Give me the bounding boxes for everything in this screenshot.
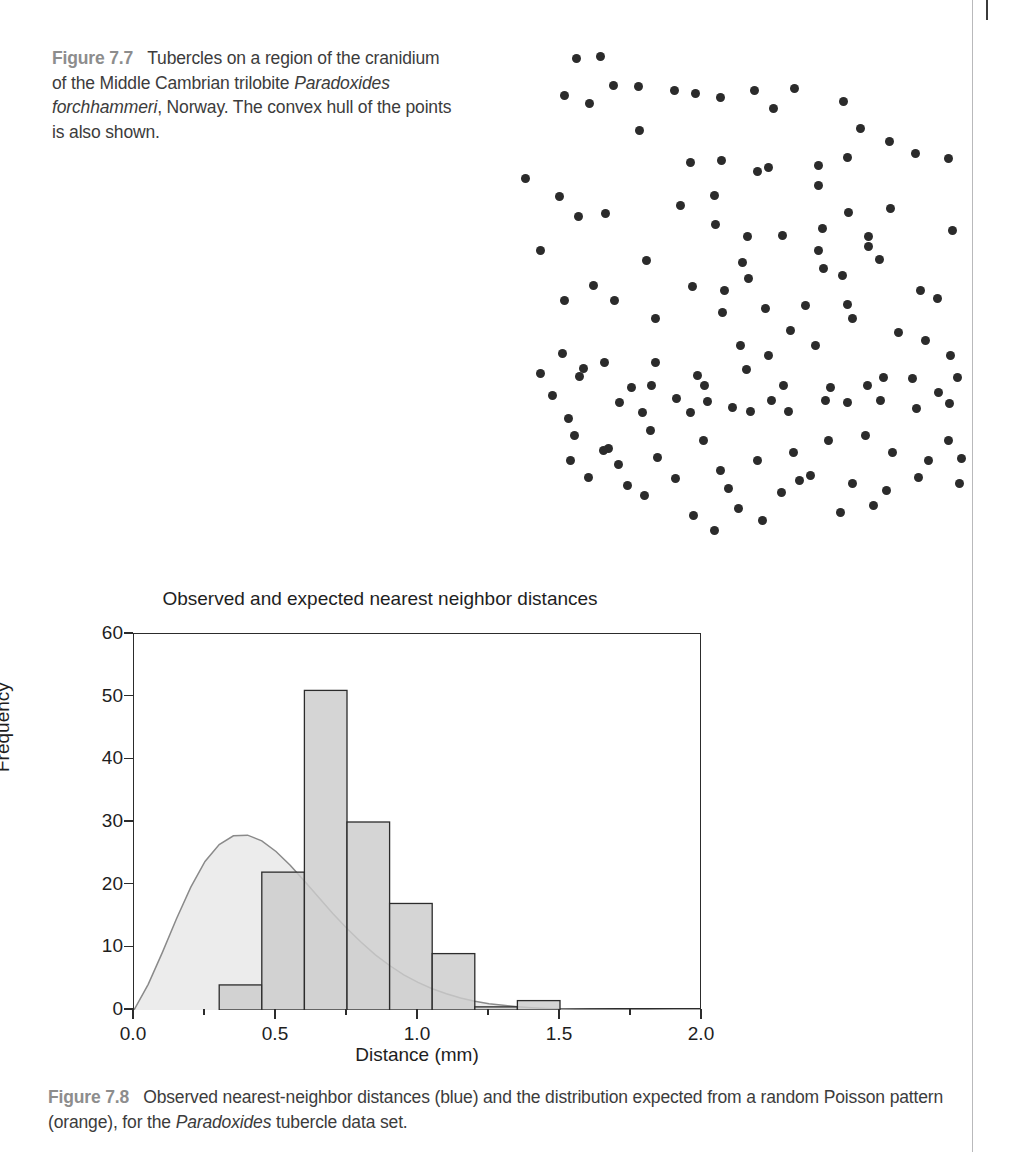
x-axis-tick-mark (274, 1009, 275, 1019)
tubercle-point (742, 365, 751, 374)
tubercle-point (955, 479, 964, 488)
y-axis-title: Frequency (0, 682, 14, 772)
tubercle-point (615, 398, 624, 407)
tubercle-point (789, 448, 798, 457)
tubercle-point (746, 407, 755, 416)
x-axis-minor-tick-mark (629, 1009, 630, 1015)
x-axis-tick-label: 0.5 (240, 1023, 310, 1045)
tubercle-point (814, 161, 823, 170)
tubercle-point (600, 358, 609, 367)
tubercle-point (894, 328, 903, 337)
tubercle-point (778, 231, 787, 240)
tubercle-point (758, 516, 767, 525)
tubercle-point (916, 286, 925, 295)
tubercle-point (610, 296, 619, 305)
tubercle-point (548, 391, 557, 400)
tubercle-point (836, 508, 845, 517)
x-axis-minor-tick-mark (487, 1009, 488, 1015)
x-axis-tick-mark (700, 1009, 701, 1019)
tubercle-point (769, 104, 778, 113)
x-axis-tick-label: 1.5 (524, 1023, 594, 1045)
figure-7-8-label: Figure 7.8 (48, 1087, 129, 1107)
plot-area (133, 633, 701, 1009)
tubercle-point (934, 388, 943, 397)
tubercle-point (957, 454, 966, 463)
tubercle-point (564, 414, 573, 423)
tubercle-point (838, 271, 847, 280)
tubercle-point (627, 383, 636, 392)
tubercle-point (609, 81, 618, 90)
tubercle-point (642, 256, 651, 265)
histogram-bar (432, 954, 475, 1010)
y-axis-tick-mark (124, 758, 133, 759)
tubercle-point (638, 408, 647, 417)
tubercle-point (585, 99, 594, 108)
tubercle-point (843, 300, 852, 309)
histogram-bar (517, 1001, 560, 1010)
tubercle-point (856, 124, 865, 133)
tubercle-point (653, 453, 662, 462)
tubercle-point (753, 456, 762, 465)
figure-7-8-species-name: Paradoxides (176, 1112, 272, 1132)
tubercle-point (676, 201, 685, 210)
figure-7-8-caption-tail: tubercle data set. (271, 1112, 407, 1132)
tubercle-point (589, 281, 598, 290)
tubercle-point (795, 476, 804, 485)
tubercle-point (911, 149, 920, 158)
tubercle-point (686, 158, 695, 167)
tubercle-point (521, 174, 530, 183)
plot-series-svg (134, 634, 702, 1010)
tubercle-point (686, 408, 695, 417)
tubercle-point (888, 448, 897, 457)
tubercle-point (640, 491, 649, 500)
histogram-bar (304, 690, 347, 1010)
figure-7-8-caption: Figure 7.8Observed nearest-neighbor dist… (48, 1085, 948, 1135)
histogram-bar (475, 1007, 518, 1010)
tubercle-scatter-plot (500, 40, 970, 540)
tubercle-point (824, 436, 833, 445)
tubercle-point (912, 404, 921, 413)
figure-7-7-label: Figure 7.7 (52, 48, 133, 68)
histogram-bar (347, 822, 390, 1010)
tubercle-point (536, 369, 545, 378)
tubercle-point (672, 394, 681, 403)
tubercle-point (753, 167, 762, 176)
tubercle-point (818, 224, 827, 233)
figure-7-7-caption: Figure 7.7Tubercles on a region of the c… (52, 46, 452, 144)
x-axis-minor-tick-mark (345, 1009, 346, 1015)
tubercle-point (843, 398, 852, 407)
tubercle-point (575, 372, 584, 381)
tubercle-point (710, 526, 719, 535)
y-axis-tick-label: 0 (81, 998, 123, 1020)
tubercle-point (944, 436, 953, 445)
tubercle-point (953, 373, 962, 382)
tubercle-point (879, 373, 888, 382)
tubercle-point (646, 426, 655, 435)
tubercle-point (933, 294, 942, 303)
tubercle-point (718, 308, 727, 317)
tubercle-point (814, 246, 823, 255)
tubercle-point (572, 54, 581, 63)
tubercle-point (558, 349, 567, 358)
tubercle-point (614, 460, 623, 469)
x-axis-tick-label: 2.0 (666, 1023, 736, 1045)
tubercle-point (671, 474, 680, 483)
tubercle-point (738, 258, 747, 267)
tubercle-point (908, 374, 917, 383)
x-axis-tick-mark (132, 1009, 133, 1019)
histogram-bar (262, 872, 305, 1010)
tubercle-point (777, 488, 786, 497)
tubercle-point (744, 274, 753, 283)
tubercle-point (599, 446, 608, 455)
tubercle-point (651, 358, 660, 367)
tubercle-point (886, 204, 895, 213)
tubercle-point (767, 396, 776, 405)
tubercle-point (710, 191, 719, 200)
tubercle-point (885, 137, 894, 146)
y-axis-tick-mark (124, 946, 133, 947)
tubercle-point (570, 431, 579, 440)
tubercle-point (711, 220, 720, 229)
tubercle-point (634, 82, 643, 91)
x-axis-tick-mark (416, 1009, 417, 1019)
tubercle-point (743, 232, 752, 241)
